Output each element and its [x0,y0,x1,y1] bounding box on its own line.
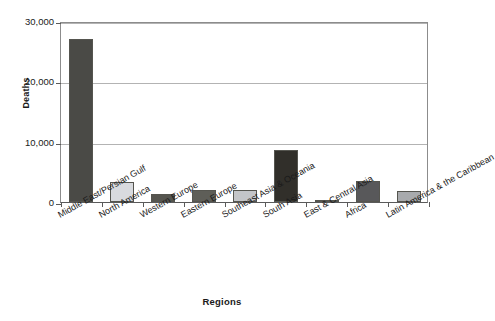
y-axis-tick-mark [56,83,61,84]
x-axis-title: Regions [0,296,444,307]
bar [315,200,339,202]
plot-area [60,22,428,203]
y-axis-tick-labels: 010,00020,00030,000 [10,0,54,321]
x-axis-tick-mark [225,202,226,207]
bar [110,182,134,202]
gridline [61,144,427,145]
x-axis-tick-mark [429,202,430,207]
y-axis-tick-label: 20,000 [10,77,54,87]
x-axis-tick-mark [61,202,62,207]
gridline [61,83,427,84]
bar [151,194,175,202]
x-axis-tick-mark [143,202,144,207]
x-axis-tick-mark [347,202,348,207]
bar [233,190,257,202]
bar [356,181,380,202]
x-axis-tick-mark [388,202,389,207]
y-axis-tick-mark [56,144,61,145]
bar [192,190,216,202]
y-axis-tick-label: 0 [10,198,54,208]
bar [69,39,93,202]
bar [397,191,421,202]
bar [274,150,298,202]
x-axis-tick-mark [265,202,266,207]
x-axis-tick-mark [184,202,185,207]
y-axis-tick-mark [56,23,61,24]
x-axis-tick-mark [102,202,103,207]
y-axis-tick-label: 30,000 [10,17,54,27]
y-axis-tick-label: 10,000 [10,138,54,148]
gridline [61,23,427,24]
x-axis-tick-mark [306,202,307,207]
